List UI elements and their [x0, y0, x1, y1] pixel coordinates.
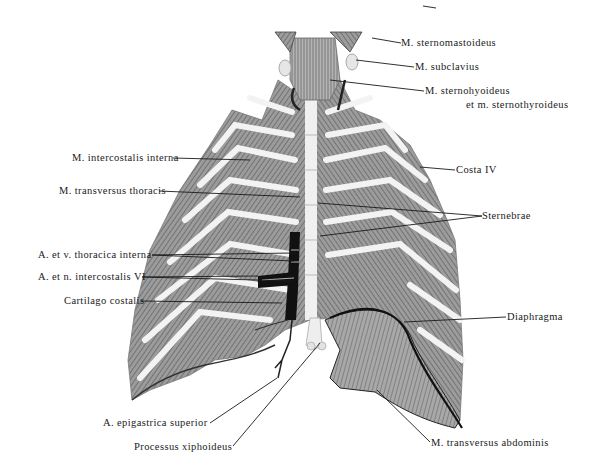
thoracic-wall-left	[128, 80, 310, 400]
label-sternothyroideus: et m. sternothyroideus	[466, 99, 568, 111]
label-transversus-thoracis: M. transversus thoracis	[59, 185, 166, 197]
sternohyoid-muscle	[290, 38, 340, 100]
subclavius-left	[279, 60, 291, 76]
sternum	[305, 95, 317, 320]
label-sternohyoideus: M. sternohyoideus	[425, 85, 510, 97]
label-sternomastoideus: M. sternomastoideus	[401, 37, 496, 49]
stray-mark	[423, 6, 436, 8]
label-epigastrica-superior: A. epigastrica superior	[103, 417, 208, 429]
label-costa-iv: Costa IV	[456, 164, 497, 176]
subclavius-right	[346, 54, 358, 70]
label-thoracica-interna: A. et v. thoracica interna	[38, 249, 152, 261]
label-transversus-abdominis: M. transversus abdominis	[431, 437, 549, 449]
label-intercostalis-vi: A. et n. intercostalis VI	[38, 271, 146, 283]
label-processus-xiphoideus: Processus xiphoideus	[134, 441, 232, 453]
label-intercostalis-interna: M. intercostalis interna	[72, 152, 179, 164]
label-cartilago-costalis: Cartilago costalis	[64, 295, 144, 307]
anatomical-illustration	[0, 0, 594, 475]
label-subclavius: M. subclavius	[415, 61, 479, 73]
label-diaphragma: Diaphragma	[507, 311, 563, 323]
label-sternebrae: Sternebrae	[482, 210, 531, 222]
